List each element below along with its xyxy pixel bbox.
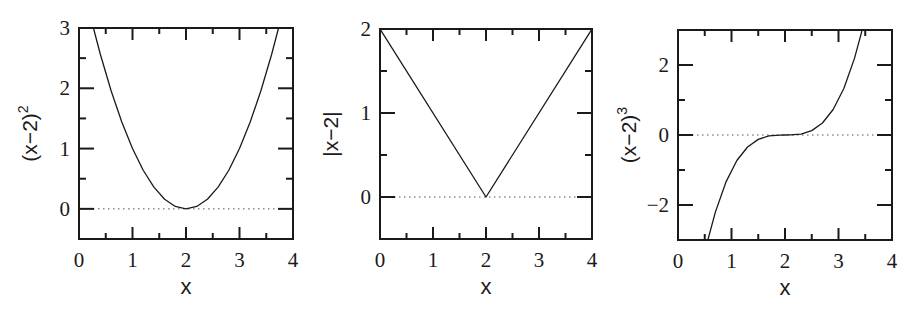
x-tick-label: 1 — [428, 248, 439, 272]
y-tick-label: 2 — [361, 17, 372, 41]
x-tick-label: 0 — [375, 248, 386, 272]
plot-frame — [380, 29, 592, 239]
curve-line — [380, 29, 592, 197]
y-tick-label: −2 — [647, 193, 669, 217]
x-axis-label: x — [481, 274, 492, 299]
plot-frame — [79, 28, 293, 239]
x-tick-label: 4 — [587, 248, 598, 272]
y-axis-label: (x−2)3 — [614, 107, 640, 163]
curve-line — [708, 30, 862, 240]
x-axis-label: x — [181, 274, 192, 299]
x-tick-label: 3 — [833, 249, 844, 273]
y-tick-label: 0 — [659, 123, 670, 147]
x-tick-label: 4 — [288, 248, 299, 272]
y-tick-label: 0 — [361, 185, 372, 209]
y-axis-label: |x−2| — [319, 111, 342, 156]
x-tick-label: 2 — [481, 248, 492, 272]
x-tick-label: 3 — [234, 248, 245, 272]
x-tick-label: 1 — [726, 249, 737, 273]
y-tick-label: 0 — [60, 197, 71, 221]
panel-square-function: 012340123x(x−2)2 — [15, 16, 299, 299]
x-axis-label: x — [780, 275, 791, 300]
y-axis-label-exponent: 2 — [15, 105, 31, 113]
x-tick-label: 0 — [673, 249, 684, 273]
y-tick-label: 1 — [361, 101, 372, 125]
curve-line — [93, 28, 278, 209]
y-tick-label: 2 — [659, 53, 670, 77]
panel-cube-function: 01234−202x(x−2)3 — [614, 30, 898, 300]
x-tick-label: 3 — [534, 248, 545, 272]
y-axis-label-exponent: 3 — [614, 107, 630, 115]
x-tick-label: 2 — [780, 249, 791, 273]
x-tick-label: 0 — [74, 248, 85, 272]
panel-abs-function: 01234012x|x−2| — [319, 17, 598, 299]
x-tick-label: 4 — [887, 249, 898, 273]
y-tick-label: 1 — [60, 137, 71, 161]
x-tick-label: 1 — [127, 248, 138, 272]
figure: 012340123x(x−2)2 01234012x|x−2| 01234−20… — [0, 0, 915, 313]
y-axis-label: (x−2)2 — [15, 105, 41, 161]
y-tick-label: 3 — [60, 16, 71, 40]
y-tick-label: 2 — [60, 76, 71, 100]
x-tick-label: 2 — [181, 248, 192, 272]
